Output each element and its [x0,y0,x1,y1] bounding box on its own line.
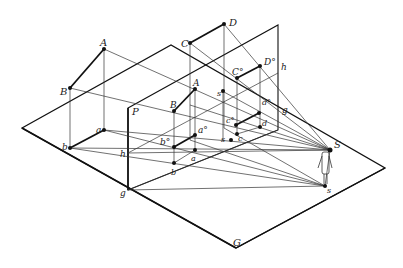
label-a0: a° [198,125,208,135]
image-AB [174,89,195,111]
label-C0: C° [232,67,243,77]
visual-rays-to-s [70,128,325,190]
points [68,22,333,188]
label-s-prime: s' [217,89,223,98]
label-a: a [96,125,101,135]
label-b: b [62,142,68,152]
label-c0: c° [226,116,234,125]
label-A-pic: A [192,78,200,88]
label-b0: b° [160,137,170,147]
edge-AB [70,49,104,88]
label-A: A [99,37,107,48]
label-C: C [181,38,189,49]
label-ag: a [191,154,196,163]
edge-CD [190,24,224,43]
ground-plane-G [22,45,385,248]
label-dg: d [262,119,267,128]
label-d0: d° [262,98,271,107]
perspective-diagram: A B a b C D P G h h g g A B C° D° a° b° … [0,0,403,268]
label-sg: s [221,135,225,144]
label-h-left: h [120,149,126,159]
label-cg: c [238,134,243,143]
label-B: B [59,86,67,97]
ground-plane-right-edge [236,168,385,248]
label-P: P [131,106,139,117]
label-h-right: h [281,62,287,72]
ground-plane-front-edge [22,128,236,248]
label-bg: b [171,168,176,177]
label-G: G [233,237,241,248]
label-D0: D° [263,57,276,67]
horizon-line [128,73,278,153]
label-S: S [334,139,341,150]
label-g-left: g [120,188,126,198]
label-s: s [327,186,331,195]
label-g-right: g [282,105,288,115]
label-B-pic: B [169,100,177,110]
label-D: D [228,17,237,28]
standing-person-icon [318,152,332,184]
